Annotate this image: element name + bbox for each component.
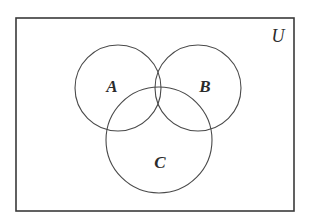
venn-diagram-canvas: A B C U xyxy=(0,0,309,220)
set-label-a: A xyxy=(105,77,117,96)
set-label-c: C xyxy=(154,153,166,172)
venn-diagram-figure: A B C U xyxy=(0,0,309,220)
universe-rectangle xyxy=(16,18,294,211)
set-label-b: B xyxy=(198,77,210,96)
universe-label: U xyxy=(272,26,286,46)
